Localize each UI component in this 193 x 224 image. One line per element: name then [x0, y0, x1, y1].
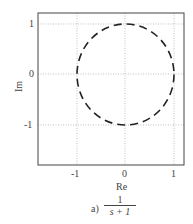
nyquist-circle — [77, 24, 174, 125]
ytick-0: 0 — [29, 68, 34, 79]
xtick-1: 1 — [171, 168, 176, 179]
grid-lines — [38, 13, 184, 165]
caption-numerator: 1 — [104, 194, 136, 206]
x-axis-label: Re — [116, 181, 127, 192]
caption-prefix: a) — [91, 203, 99, 214]
xtick-0: 0 — [122, 168, 127, 179]
nyquist-plot — [0, 0, 193, 224]
plot-frame — [38, 13, 184, 165]
ytick-1: 1 — [29, 18, 34, 29]
ytick-neg1: -1 — [24, 119, 32, 130]
y-axis-label: Im — [13, 81, 24, 92]
caption-fraction: 1 s + 1 — [104, 194, 136, 218]
caption-denominator: s + 1 — [104, 206, 136, 218]
xtick-neg1: -1 — [71, 168, 79, 179]
